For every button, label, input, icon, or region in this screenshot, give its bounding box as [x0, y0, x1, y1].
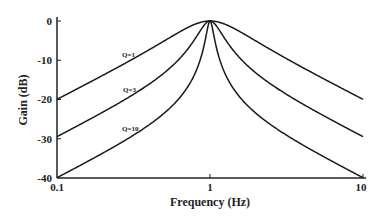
x-tick-label: 1: [207, 181, 213, 193]
x-ticks: 0.1 1 10: [50, 174, 367, 193]
y-tick-label: -10: [37, 54, 52, 66]
x-tick-label: 10: [356, 181, 368, 193]
y-tick-label: 0: [47, 15, 53, 27]
y-tick-label: -20: [37, 93, 52, 105]
y-axis-title: Gain (dB): [16, 74, 30, 125]
curve-q10: [57, 21, 363, 178]
curve-q1: [57, 21, 363, 99]
y-tick-label: -30: [37, 133, 52, 145]
curve-q3: [57, 21, 363, 137]
label-q3: Q=3: [123, 86, 136, 94]
bandpass-gain-chart: 0 -10 -20 -30 -40 0.1 1 10 Frequency (Hz…: [0, 0, 383, 220]
label-q10: Q=10: [122, 125, 139, 133]
x-tick-label: 0.1: [50, 181, 64, 193]
x-axis-title: Frequency (Hz): [170, 195, 250, 209]
label-q1: Q=1: [122, 51, 135, 59]
plot-area: 0 -10 -20 -30 -40 0.1 1 10 Frequency (Hz…: [16, 15, 367, 209]
